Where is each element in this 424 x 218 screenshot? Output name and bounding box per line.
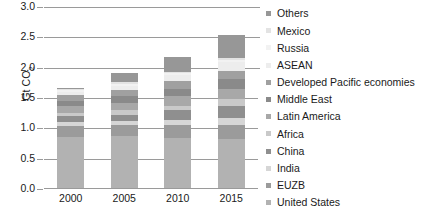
legend-color-swatch-icon [266, 80, 271, 85]
bar-segment[interactable] [57, 137, 84, 188]
legend-item[interactable]: China [266, 143, 424, 160]
plot-area [44, 7, 258, 189]
y-axis-tick-label: 2.0 [0, 61, 35, 73]
x-axis-tick-label: 2000 [43, 192, 99, 204]
legend-item-label: India [277, 163, 300, 174]
bar-segment[interactable] [164, 81, 191, 88]
stacked-bar-chart: Gt CO2 0.00.51.01.52.02.53.0 20002005201… [0, 0, 424, 218]
legend-item-label: Africa [277, 129, 304, 140]
legend-item-label: Mexico [277, 26, 310, 37]
bar-series-container [44, 7, 258, 189]
legend-color-swatch-icon [266, 63, 271, 68]
bar-segment[interactable] [111, 103, 138, 111]
bar-segment[interactable] [57, 126, 84, 138]
x-axis-tick-label: 2015 [203, 192, 259, 204]
bar-segment[interactable] [111, 90, 138, 97]
y-axis-tick-label: 0.0 [0, 182, 35, 194]
bar-segment[interactable] [218, 89, 245, 99]
y-axis-tick-mark [37, 68, 43, 69]
legend-color-swatch-icon [266, 97, 271, 102]
legend-item-label: ASEAN [277, 60, 313, 71]
y-axis-tick-label: 2.5 [0, 30, 35, 42]
legend-color-swatch-icon [266, 200, 271, 205]
bar-segment[interactable] [164, 89, 191, 97]
legend-color-swatch-icon [266, 28, 271, 33]
legend-color-swatch-icon [266, 11, 271, 16]
bar-segment[interactable] [218, 62, 245, 70]
legend-item[interactable]: Others [266, 5, 424, 22]
legend-item[interactable]: Developed Pacific economies [266, 74, 424, 91]
bar-stack [57, 88, 84, 188]
bar-stack [111, 73, 138, 188]
bar-segment[interactable] [218, 71, 245, 79]
x-axis-tick-label: 2010 [150, 192, 206, 204]
y-axis-tick-label: 1.5 [0, 91, 35, 103]
legend-color-swatch-icon [266, 45, 271, 50]
legend-item-label: Latin America [277, 111, 341, 122]
bar-segment[interactable] [218, 106, 245, 119]
bar-segment[interactable] [111, 73, 138, 82]
legend-item[interactable]: Africa [266, 125, 424, 142]
bar-segment[interactable] [111, 136, 138, 188]
legend-item-label: Middle East [277, 94, 332, 105]
bar-segment[interactable] [218, 35, 245, 57]
legend-color-swatch-icon [266, 131, 271, 136]
legend-color-swatch-icon [266, 183, 271, 188]
legend: OthersMexicoRussiaASEANDeveloped Pacific… [266, 5, 424, 211]
bar-segment[interactable] [218, 139, 245, 188]
legend-color-swatch-icon [266, 149, 271, 154]
y-axis-tick-label: 0.5 [0, 152, 35, 164]
legend-color-swatch-icon [266, 166, 271, 171]
bar-segment[interactable] [111, 115, 138, 122]
legend-item-label: Developed Pacific economies [277, 77, 415, 88]
bar-segment[interactable] [164, 96, 191, 105]
bar-segment[interactable] [164, 57, 191, 72]
bar-segment[interactable] [164, 138, 191, 188]
y-axis-tick-label: 3.0 [0, 0, 35, 12]
y-axis-tick-mark [37, 128, 43, 129]
bar-group[interactable] [164, 57, 191, 188]
legend-item[interactable]: Mexico [266, 22, 424, 39]
legend-item[interactable]: Latin America [266, 108, 424, 125]
y-axis-tick-mark [37, 7, 43, 8]
y-axis-tick-mark [37, 159, 43, 160]
bar-segment[interactable] [164, 125, 191, 138]
bar-segment[interactable] [164, 110, 191, 120]
bar-segment[interactable] [218, 79, 245, 89]
bar-segment[interactable] [111, 125, 138, 136]
bar-segment[interactable] [57, 106, 84, 113]
legend-item[interactable]: United States [266, 194, 424, 211]
y-axis-tick-label: 1.0 [0, 121, 35, 133]
bar-segment[interactable] [218, 118, 245, 125]
legend-item[interactable]: India [266, 160, 424, 177]
legend-item-label: EUZB [277, 180, 305, 191]
legend-item-label: United States [277, 197, 340, 208]
x-axis-tick-label: 2005 [96, 192, 152, 204]
x-axis-line [44, 188, 258, 189]
legend-item-label: Russia [277, 43, 309, 54]
legend-item-label: China [277, 146, 304, 157]
bar-stack [218, 35, 245, 188]
y-axis-tick-mark [37, 37, 43, 38]
legend-item-label: Others [277, 8, 309, 19]
bar-group[interactable] [57, 88, 84, 188]
legend-item[interactable]: ASEAN [266, 57, 424, 74]
bar-segment[interactable] [218, 125, 245, 140]
y-axis-tick-mark [37, 189, 43, 190]
legend-item[interactable]: Russia [266, 39, 424, 56]
bar-group[interactable] [111, 73, 138, 188]
y-axis-tick-mark [37, 98, 43, 99]
legend-color-swatch-icon [266, 114, 271, 119]
legend-item[interactable]: EUZB [266, 177, 424, 194]
bar-group[interactable] [218, 35, 245, 188]
legend-item[interactable]: Middle East [266, 91, 424, 108]
bar-stack [164, 57, 191, 188]
